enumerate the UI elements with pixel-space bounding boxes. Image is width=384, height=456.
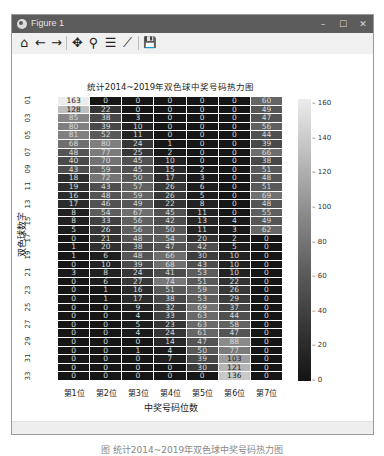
toolbar-separator (66, 36, 67, 50)
y-tick-label: 25 (24, 299, 32, 315)
maximize-button[interactable]: ☐ (334, 17, 352, 31)
window-title: Figure 1 (31, 18, 64, 28)
y-tick-label: 27 (24, 316, 32, 332)
save-icon[interactable]: 💾 (142, 35, 157, 51)
colorbar-tick-label: – 40 (312, 307, 327, 315)
y-tick-label: 11 (24, 178, 32, 194)
y-tick-label: 23 (24, 282, 32, 298)
y-tick-label: 07 (24, 144, 32, 160)
toolbar: ⌂ ← → ✥ ⚲ ☰ ⟋ 💾 (12, 33, 373, 54)
edit-axis-icon[interactable]: ⟋ (120, 35, 135, 51)
colorbar-tick-label: – 100 (312, 203, 331, 211)
colorbar-tick-label: – 80 (312, 238, 327, 246)
chart-title: 统计2014~2019年双色球中奖号码热力图 (58, 80, 283, 92)
y-tick-label: 13 (24, 196, 32, 212)
colorbar (298, 99, 311, 381)
colorbar-tick-label: – 140 (312, 134, 331, 142)
minimize-button[interactable]: – (314, 17, 332, 31)
figure-caption: 图 统计2014~2019年双色球中奖号码热力图 (0, 443, 384, 456)
y-tick-label: 29 (24, 333, 32, 349)
heatmap-cell: 136 (219, 372, 251, 381)
toolbar-separator (138, 36, 139, 50)
y-axis-label: 双色球数字 (15, 212, 28, 257)
y-tick-label: 05 (24, 127, 32, 143)
colorbar-tick-label: – 60 (312, 272, 327, 280)
colorbar-tick-label: – 20 (312, 341, 327, 349)
x-tick-label: 第1位 (58, 387, 90, 398)
heatmap-cell: 0 (251, 372, 283, 381)
zoom-icon[interactable]: ⚲ (86, 35, 101, 51)
title-bar[interactable]: Figure 1 – ☐ ✕ (12, 15, 373, 33)
app-icon (17, 19, 27, 29)
status-bar (12, 421, 373, 434)
colorbar-tick-label: – 120 (312, 168, 331, 176)
y-tick-label: 21 (24, 264, 32, 280)
subplots-config-icon[interactable]: ☰ (103, 35, 118, 51)
y-tick-label: 01 (24, 92, 32, 108)
close-button[interactable]: ✕ (354, 17, 372, 31)
y-tick-label: 31 (24, 350, 32, 366)
colorbar-tick-label: – 160 (312, 99, 331, 107)
y-tick-label: 03 (24, 110, 32, 126)
y-tick-label: 09 (24, 161, 32, 177)
x-tick-label: 第4位 (154, 387, 186, 398)
x-axis-label: 中奖号码位数 (58, 401, 283, 414)
y-tick-label: 33 (24, 368, 32, 384)
heatmap-cell: 0 (187, 372, 219, 381)
back-arrow-icon[interactable]: ← (33, 35, 48, 51)
x-tick-label: 第7位 (251, 387, 283, 398)
heatmap-cell: 0 (122, 372, 154, 381)
x-tick-label: 第2位 (90, 387, 122, 398)
heatmap-cell: 0 (90, 372, 122, 381)
x-tick-label: 第5位 (187, 387, 219, 398)
colorbar-tick-label: – 0 (312, 376, 322, 384)
heatmap-grid: 1630000060128220000498538300047803910000… (58, 97, 283, 381)
home-icon[interactable]: ⌂ (17, 35, 32, 51)
forward-arrow-icon[interactable]: → (49, 35, 64, 51)
pan-icon[interactable]: ✥ (70, 35, 85, 51)
heatmap-cell: 0 (154, 372, 186, 381)
x-tick-label: 第3位 (122, 387, 154, 398)
heatmap-cell: 0 (58, 372, 90, 381)
x-tick-label: 第6位 (219, 387, 251, 398)
